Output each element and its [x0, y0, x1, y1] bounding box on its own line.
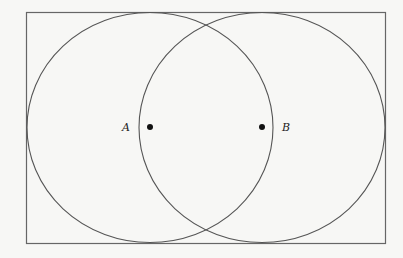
- point-a-dot: [147, 124, 153, 130]
- venn-diagram: A B: [0, 0, 403, 258]
- point-b-dot: [259, 124, 265, 130]
- point-b-label: B: [281, 121, 290, 134]
- universal-set-rectangle: [27, 13, 386, 244]
- point-a-label: A: [121, 121, 130, 134]
